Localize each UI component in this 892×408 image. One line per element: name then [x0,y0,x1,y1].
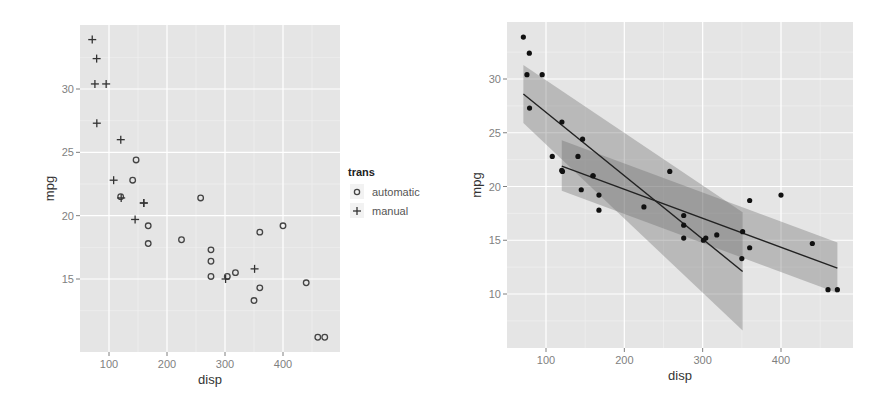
y-tick-label: 25 [489,127,501,139]
left-scatter-chart: 10020030040015202530dispmpgtransautomati… [0,0,450,408]
left-x-axis: 100200300400 [100,352,292,370]
y-tick-label: 25 [62,146,74,158]
y-tick-label: 15 [489,234,501,246]
left-y-axis: 15202530 [62,83,80,285]
x-tick-label: 400 [274,358,292,370]
y-tick-label: 30 [489,73,501,85]
right-y-axis: 1015202530 [489,73,507,300]
left-panel-background [80,25,340,352]
y-tick-label: 20 [62,210,74,222]
right-smooth-chart: 1002003004001015202530dispmpg [450,0,892,408]
left-y-axis-title: mpg [42,176,57,201]
y-tick-label: 20 [489,181,501,193]
x-tick-label: 100 [100,358,118,370]
legend-title: trans [348,166,375,178]
x-tick-label: 300 [693,354,711,366]
x-tick-label: 400 [772,354,790,366]
legend-label: manual [372,205,408,217]
y-tick-label: 30 [62,83,74,95]
x-tick-label: 300 [216,358,234,370]
right-y-axis-title: mpg [469,172,484,197]
x-tick-label: 200 [615,354,633,366]
y-tick-label: 10 [489,288,501,300]
left-x-axis-title: disp [198,372,222,387]
legend-item-automatic: automatic [350,184,420,199]
legend: transautomaticmanual [348,166,420,218]
legend-item-manual: manual [350,203,408,218]
x-tick-label: 200 [158,358,176,370]
right-x-axis: 100200300400 [537,348,790,366]
x-tick-label: 100 [537,354,555,366]
right-plot-svg: 1002003004001015202530dispmpg [450,0,892,408]
y-tick-label: 15 [62,273,74,285]
right-x-axis-title: disp [668,368,692,383]
legend-label: automatic [372,186,420,198]
left-plot-svg: 10020030040015202530dispmpgtransautomati… [0,0,450,408]
